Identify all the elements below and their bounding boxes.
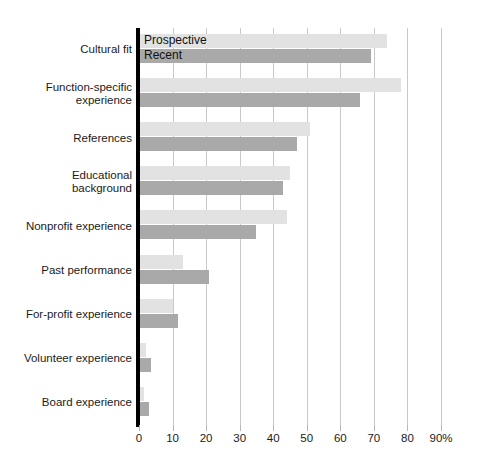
x-tick-60	[340, 425, 341, 431]
bar-rows: ProspectiveRecent	[139, 28, 441, 425]
bar-group: ProspectiveRecent	[139, 28, 441, 72]
x-tick-label-10: 10	[166, 432, 179, 444]
category-label: Cultural fit	[0, 28, 132, 72]
x-tick-20	[206, 425, 207, 431]
x-tick-0	[139, 425, 140, 431]
category-label-line: Volunteer experience	[24, 352, 132, 366]
x-tick-label-60: 60	[334, 432, 347, 444]
x-tick-50	[307, 425, 308, 431]
category-label-line: experience	[76, 94, 132, 108]
category-label-line: background	[72, 182, 132, 196]
x-tick-label-30: 30	[233, 432, 246, 444]
y-axis-category-labels: Cultural fitFunction-specificexperienceR…	[0, 28, 132, 425]
bar-recent	[139, 402, 149, 416]
bar-group	[139, 72, 441, 116]
bar-recent	[139, 358, 151, 372]
bar-group	[139, 337, 441, 381]
legend-label-recent: Recent	[144, 48, 182, 62]
bar-group	[139, 204, 441, 248]
category-label: Board experience	[0, 381, 132, 425]
bar-prospective	[139, 78, 401, 92]
x-tick-90	[441, 425, 442, 431]
category-label: Function-specificexperience	[0, 72, 132, 116]
x-tick-70	[374, 425, 375, 431]
bar-prospective	[139, 299, 173, 313]
x-tick-label-20: 20	[200, 432, 213, 444]
bar-prospective	[139, 166, 290, 180]
category-label-line: References	[73, 132, 132, 146]
bar-chart: ProspectiveRecent Cultural fitFunction-s…	[0, 0, 486, 473]
category-label-line: For-profit experience	[26, 308, 132, 322]
bar-prospective	[139, 255, 183, 269]
bar-recent	[139, 181, 283, 195]
bar-prospective	[139, 210, 287, 224]
x-tick-label-70: 70	[367, 432, 380, 444]
gridline-90	[441, 28, 442, 425]
category-label: References	[0, 116, 132, 160]
category-label: For-profit experience	[0, 293, 132, 337]
x-tick-label-50: 50	[300, 432, 313, 444]
x-tick-label-40: 40	[267, 432, 280, 444]
category-label: Past performance	[0, 249, 132, 293]
category-label-line: Past performance	[41, 264, 132, 278]
category-label-line: Board experience	[42, 396, 132, 410]
x-axis-tick-labels: 0102030405060708090%	[0, 432, 486, 452]
legend-label-prospective: Prospective	[144, 33, 207, 47]
bar-recent	[139, 93, 360, 107]
bar-group	[139, 293, 441, 337]
x-tick-40	[273, 425, 274, 431]
category-label: Volunteer experience	[0, 337, 132, 381]
category-label-line: Cultural fit	[80, 43, 132, 57]
category-label: Educationalbackground	[0, 160, 132, 204]
x-tick-10	[173, 425, 174, 431]
bar-group	[139, 249, 441, 293]
bar-prospective	[139, 343, 146, 357]
x-tick-label-90: 90%	[429, 432, 452, 444]
plot-area: ProspectiveRecent	[139, 28, 441, 425]
category-label-line: Educational	[72, 169, 132, 183]
x-tick-30	[240, 425, 241, 431]
bar-recent	[139, 270, 209, 284]
bar-recent	[139, 137, 297, 151]
bar-recent	[139, 314, 178, 328]
x-tick-80	[407, 425, 408, 431]
bar-group	[139, 116, 441, 160]
category-label-line: Nonprofit experience	[26, 220, 132, 234]
bar-prospective	[139, 122, 310, 136]
bar-group	[139, 381, 441, 425]
y-axis-line	[136, 28, 140, 427]
category-label: Nonprofit experience	[0, 204, 132, 248]
x-tick-label-0: 0	[136, 432, 142, 444]
bar-recent	[139, 225, 256, 239]
x-tick-label-80: 80	[401, 432, 414, 444]
bar-group	[139, 160, 441, 204]
category-label-line: Function-specific	[46, 81, 132, 95]
